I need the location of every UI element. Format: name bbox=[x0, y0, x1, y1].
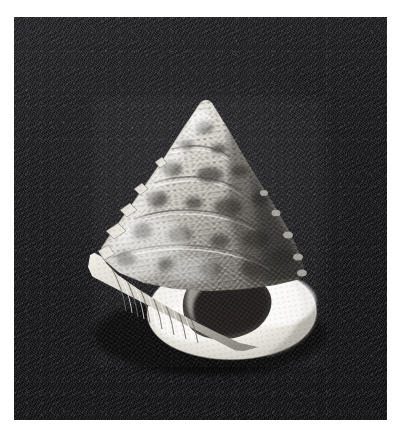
shell-photograph bbox=[14, 17, 387, 420]
shell-illustration bbox=[14, 17, 387, 420]
shell-subject bbox=[14, 17, 387, 420]
page-canvas: Black and white photograph of a conical … bbox=[0, 0, 406, 442]
shell-grain bbox=[94, 97, 324, 367]
